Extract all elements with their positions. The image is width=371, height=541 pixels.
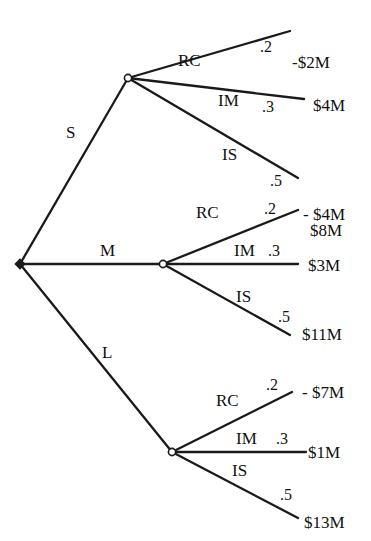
probability-label: .5 (270, 172, 282, 189)
outcome-im: IM.3$1M (172, 429, 340, 462)
decision-label: L (102, 343, 112, 362)
probability-label: .5 (280, 486, 292, 503)
outcome-is: IS.5$11M (163, 264, 342, 344)
payoff-value: -$2M (292, 53, 330, 72)
outcome-label: IS (222, 145, 237, 164)
outcome-label: IS (232, 461, 247, 480)
decision-branch-l: LRC.2- $7MIM.3$1MIS.5$13M (20, 264, 345, 532)
outcome-label: IM (236, 429, 257, 448)
outcome-rc: RC.2-$2M (128, 31, 330, 78)
probability-label: .2 (260, 38, 272, 55)
outcome-label: RC (216, 391, 239, 410)
outcome-label: RC (196, 203, 219, 222)
payoff-value: - $7M (302, 383, 344, 402)
payoff-value: $1M (308, 443, 340, 462)
outcome-im: IM.3$3M (163, 241, 340, 275)
payoff-value: $3M (308, 256, 340, 275)
probability-label: .3 (276, 430, 288, 447)
outcome-label: RC (178, 51, 201, 70)
outcome-edge (163, 264, 290, 335)
decision-label: S (66, 123, 75, 142)
payoff-value: $4M (313, 96, 345, 115)
chance-node-icon (168, 448, 175, 455)
decision-edge (20, 264, 172, 452)
probability-label: .2 (266, 376, 278, 393)
payoff-value: $13M (304, 513, 345, 532)
decision-edge (20, 78, 128, 264)
outcome-edge (128, 78, 298, 178)
outcome-rc: RC.2- $7M (172, 376, 344, 452)
chance-node-icon (159, 260, 166, 267)
outcome-edge (128, 78, 304, 99)
decision-label: M (100, 241, 115, 260)
probability-label: .5 (278, 308, 290, 325)
decision-branch-s: SRC.2-$2MIM.3$4MIS.5$8M (20, 31, 345, 264)
payoff-value: $11M (302, 325, 342, 344)
outcome-label: IS (236, 287, 251, 306)
decision-branch-m: MRC.2- $4MIM.3$3MIS.5$11M (20, 200, 345, 344)
outcome-is: IS.5$13M (172, 452, 345, 532)
probability-label: .3 (268, 242, 280, 259)
outcome-label: IM (218, 91, 239, 110)
probability-label: .2 (264, 200, 276, 217)
chance-node-icon (124, 74, 131, 81)
payoff-value: - $4M (303, 205, 345, 224)
probability-label: .3 (262, 98, 274, 115)
outcome-label: IM (234, 241, 255, 260)
decision-tree-diagram: SRC.2-$2MIM.3$4MIS.5$8MMRC.2- $4MIM.3$3M… (0, 0, 371, 541)
